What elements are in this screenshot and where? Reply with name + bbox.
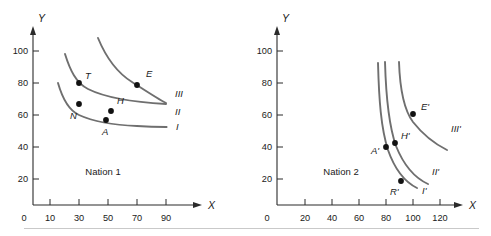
x-tick-label-60: 60 [354, 213, 364, 223]
y-ticks-nation-1 [33, 51, 39, 179]
point-label-E-prime: E' [421, 101, 430, 112]
point-A-prime [383, 144, 389, 150]
curve-label-II: II [175, 106, 181, 117]
panel-label-nation-2: Nation 2 [323, 166, 358, 177]
point-label-N: N [70, 110, 77, 121]
x-tick-label-90: 90 [161, 213, 171, 223]
curve-III [98, 38, 166, 103]
y-tick-label-80: 80 [262, 78, 272, 88]
panel-nation-1: 20 40 60 80 100 0 10 30 50 70 90 [0, 0, 245, 236]
axes-nation-2 [274, 26, 463, 208]
curve-I-prime [378, 63, 417, 188]
y-tick-label-60: 60 [262, 110, 272, 120]
data-points-nation-2: A' H' E' R' [370, 101, 430, 197]
y-tick-label-40: 40 [262, 142, 272, 152]
curve-label-III-prime: III' [451, 123, 462, 134]
x-tick-label-30: 30 [74, 213, 84, 223]
point-label-E: E [146, 68, 153, 79]
x-axis-label: X [207, 199, 216, 211]
x-tick-label-100: 100 [405, 213, 420, 223]
footer-divider [24, 228, 479, 229]
point-T [76, 80, 82, 86]
y-tick-label-40: 40 [18, 142, 28, 152]
x-tick-label-20: 20 [300, 213, 310, 223]
point-label-H-prime: H' [401, 130, 411, 141]
curve-label-I-prime: I' [422, 185, 428, 196]
curve-label-I: I [176, 121, 179, 132]
point-E [134, 82, 140, 88]
y-tick-label-20: 20 [18, 174, 28, 184]
y-tick-label-20: 20 [262, 174, 272, 184]
panel-nation-2: 20 40 60 80 100 0 20 40 60 80 [245, 0, 491, 236]
axes-nation-1 [30, 26, 202, 208]
point-R-prime [398, 178, 404, 184]
chart-nation-2: 20 40 60 80 100 0 20 40 60 80 [245, 0, 491, 236]
x-axis-label: X [468, 199, 477, 211]
point-label-A: A [101, 126, 108, 137]
point-E-prime [410, 111, 416, 117]
curve-II-prime [385, 62, 428, 184]
y-axis-label: Y [282, 12, 290, 24]
y-tick-label-100: 100 [257, 46, 272, 56]
y-tick-label-80: 80 [18, 78, 28, 88]
curve-label-II-prime: II' [432, 166, 440, 177]
x-axis-arrow [193, 202, 202, 208]
indifference-curve-figure: 20 40 60 80 100 0 10 30 50 70 90 [0, 0, 491, 236]
x-tick-label-80: 80 [381, 213, 391, 223]
x-tick-label-0: 0 [21, 213, 26, 223]
point-label-H: H [117, 95, 124, 106]
chart-nation-1: 20 40 60 80 100 0 10 30 50 70 90 [0, 0, 245, 236]
curve-label-III: III [175, 88, 183, 99]
x-ticks-nation-2 [305, 199, 440, 205]
point-label-A-prime: A' [370, 145, 380, 156]
point-N [76, 101, 82, 107]
x-axis-arrow [454, 202, 463, 208]
x-tick-label-120: 120 [432, 213, 447, 223]
y-axis-arrow [274, 26, 280, 35]
point-H [108, 108, 114, 114]
point-label-T: T [85, 70, 92, 81]
x-tick-label-0: 0 [264, 213, 269, 223]
y-tick-label-100: 100 [13, 46, 28, 56]
y-tick-label-60: 60 [18, 110, 28, 120]
x-tick-label-70: 70 [132, 213, 142, 223]
curve-II [65, 54, 166, 104]
y-axis-label: Y [38, 12, 46, 24]
point-A [103, 117, 109, 123]
point-label-R-prime: R' [390, 186, 400, 197]
x-tick-label-10: 10 [45, 213, 55, 223]
x-tick-label-50: 50 [103, 213, 113, 223]
y-axis-arrow [30, 26, 36, 35]
point-H-prime [392, 140, 398, 146]
x-tick-label-40: 40 [327, 213, 337, 223]
panels-container: 20 40 60 80 100 0 10 30 50 70 90 [0, 0, 491, 236]
x-ticks-nation-1 [50, 199, 166, 205]
y-ticks-nation-2 [277, 51, 283, 179]
panel-label-nation-1: Nation 1 [85, 166, 120, 177]
